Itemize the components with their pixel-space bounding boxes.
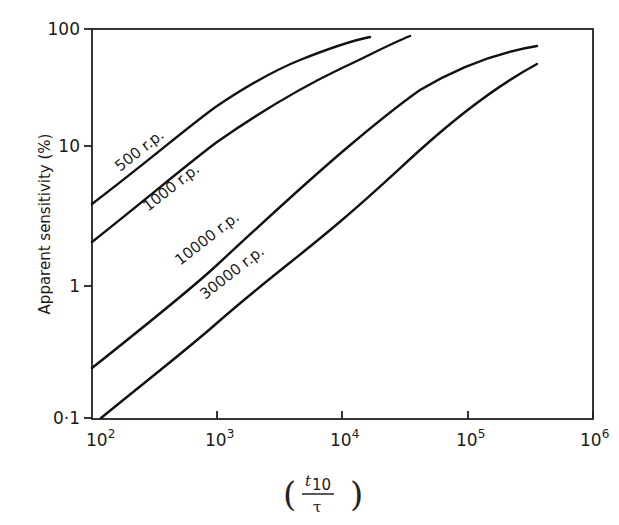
y-axis: 100 10 1 0·1 Apparent sensitivity (%) bbox=[36, 19, 92, 428]
x-tick-label: 106 bbox=[580, 427, 609, 450]
svg-text:τ: τ bbox=[313, 498, 321, 516]
curve-label-1000rp: 1000 r.p. bbox=[139, 160, 203, 215]
chart: 100 10 1 0·1 Apparent sensitivity (%) 10… bbox=[0, 0, 619, 525]
x-axis-label: ( ) t 10 τ bbox=[283, 472, 363, 516]
curve-30000rp bbox=[101, 64, 537, 418]
x-tick-label: 103 bbox=[205, 427, 234, 450]
y-tick-label: 100 bbox=[48, 19, 80, 39]
y-axis-label: Apparent sensitivity (%) bbox=[36, 134, 54, 315]
y-tick-label: 0·1 bbox=[53, 408, 80, 428]
svg-text:(: ( bbox=[283, 474, 296, 514]
svg-text:): ) bbox=[350, 474, 363, 514]
plot-frame bbox=[92, 29, 593, 419]
svg-text:t: t bbox=[305, 472, 312, 490]
y-tick-label: 10 bbox=[58, 136, 80, 156]
svg-text:10: 10 bbox=[312, 476, 331, 494]
x-tick-label: 105 bbox=[456, 427, 485, 450]
x-axis: 102 103 104 105 106 bbox=[86, 411, 609, 450]
y-tick-label: 1 bbox=[69, 276, 80, 296]
curve-500rp bbox=[92, 37, 370, 204]
x-tick-label: 102 bbox=[86, 427, 115, 450]
x-tick-label: 104 bbox=[330, 427, 359, 450]
